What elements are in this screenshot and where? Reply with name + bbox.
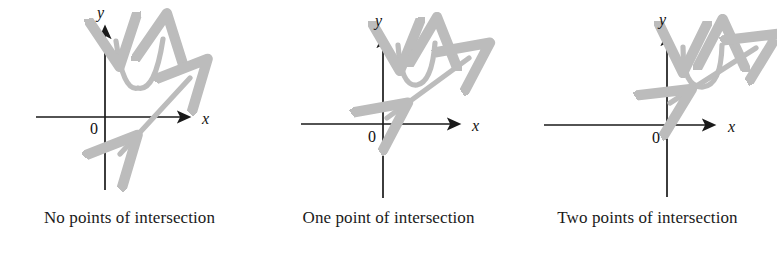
panel-no-intersection: x y 0 No points of intersection xyxy=(0,0,259,256)
plot-area: x y 0 xyxy=(0,0,259,205)
origin-label: 0 xyxy=(652,129,660,146)
plot-area: x y 0 xyxy=(518,0,777,205)
parabola-curve xyxy=(116,39,163,88)
x-axis-label: x xyxy=(201,110,209,127)
y-axis-label: y xyxy=(657,11,667,29)
panel-caption: One point of intersection xyxy=(259,208,518,228)
panel-two-intersections: x y 0 Two points of intersection xyxy=(518,0,777,256)
parabola-curve xyxy=(398,43,435,85)
origin-label: 0 xyxy=(90,120,98,137)
origin-label: 0 xyxy=(368,128,376,145)
panel-one-intersection: x y 0 One point of intersection xyxy=(259,0,518,256)
y-axis-label: y xyxy=(95,4,105,22)
y-axis-label: y xyxy=(373,12,383,30)
x-axis-label: x xyxy=(727,118,735,135)
panel-caption: Two points of intersection xyxy=(518,208,777,228)
plot-area: x y 0 xyxy=(259,0,518,205)
panel-caption: No points of intersection xyxy=(0,208,259,228)
intersection-figure: x y 0 No points of intersection xyxy=(0,0,777,256)
x-axis-label: x xyxy=(471,117,479,134)
